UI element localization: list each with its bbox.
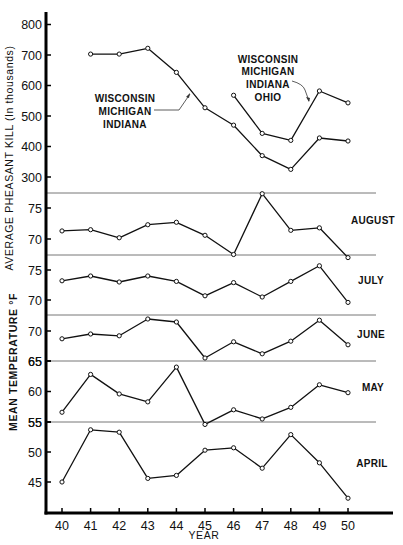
data-point-marker: [346, 256, 350, 260]
data-point-marker: [289, 433, 293, 437]
data-point-marker: [174, 365, 178, 369]
data-point-marker: [232, 252, 236, 256]
annotation-arrow: [154, 94, 190, 110]
data-point-marker: [203, 106, 207, 110]
month-label: AUGUST: [351, 215, 395, 226]
series-line: [62, 430, 348, 498]
series-label-wi-mi-in: INDIANA: [103, 119, 147, 130]
y-tick-label: 75: [28, 264, 42, 278]
data-point-marker: [317, 318, 321, 322]
arrow-head-icon: [186, 93, 190, 98]
data-point-marker: [203, 233, 207, 237]
data-point-marker: [60, 279, 64, 283]
series-line: [62, 194, 348, 258]
series-label-wi-mi-in-oh: MICHIGAN: [242, 66, 295, 77]
data-point-marker: [289, 405, 293, 409]
chart-canvas: 4041424344454647484950YEAR30040050060070…: [0, 0, 403, 545]
y-tick-label: 500: [21, 110, 42, 124]
y-tick-label: 45: [28, 476, 42, 490]
data-point-marker: [289, 167, 293, 171]
x-tick-label: 47: [255, 519, 269, 533]
x-tick-label: 50: [341, 519, 355, 533]
y-tick-label: 70: [28, 294, 42, 308]
data-point-marker: [146, 274, 150, 278]
data-point-marker: [89, 332, 93, 336]
data-point-marker: [260, 192, 264, 196]
data-point-marker: [317, 226, 321, 230]
y-tick-label: 60: [28, 385, 42, 399]
x-axis-title: YEAR: [189, 529, 220, 541]
annotation-arrow: [292, 81, 309, 101]
data-point-marker: [260, 295, 264, 299]
data-point-marker: [289, 228, 293, 232]
data-point-marker: [203, 294, 207, 298]
data-point-marker: [346, 391, 350, 395]
y-tick-label: 50: [28, 446, 42, 460]
data-point-marker: [346, 101, 350, 105]
data-point-marker: [89, 372, 93, 376]
data-point-marker: [89, 52, 93, 56]
data-point-marker: [317, 89, 321, 93]
data-point-marker: [89, 428, 93, 432]
data-point-marker: [174, 320, 178, 324]
x-tick-label: 41: [84, 519, 98, 533]
series-line: [62, 319, 348, 358]
month-label: APRIL: [356, 458, 388, 469]
y-axis-title-temperature: MEAN TEMPERATURE °F: [7, 293, 19, 431]
data-point-marker: [232, 93, 236, 97]
data-point-marker: [117, 236, 121, 240]
y-tick-label: 65: [28, 355, 42, 369]
x-tick-label: 46: [227, 519, 241, 533]
x-tick-label: 42: [112, 519, 126, 533]
data-point-marker: [146, 223, 150, 227]
y-axis-title-pheasant-kill: AVERAGE PHEASANT KILL (In thousands): [3, 45, 15, 270]
data-point-marker: [346, 496, 350, 500]
data-point-marker: [346, 139, 350, 143]
series-label-wi-mi-in: WISCONSIN: [95, 93, 155, 104]
data-point-marker: [117, 334, 121, 338]
data-point-marker: [346, 300, 350, 304]
series-label-wi-mi-in-oh: INDIANA: [246, 79, 290, 90]
data-point-marker: [146, 400, 150, 404]
data-point-marker: [260, 466, 264, 470]
series-line: [62, 367, 348, 424]
data-point-marker: [346, 343, 350, 347]
annotations: AUGUSTJULYJUNEMAYAPRILWISCONSINMICHIGANI…: [95, 54, 395, 470]
data-point-marker: [232, 446, 236, 450]
data-point-marker: [174, 473, 178, 477]
y-tick-label: 400: [21, 140, 42, 154]
data-point-marker: [260, 417, 264, 421]
data-point-marker: [260, 352, 264, 356]
y-tick-label: 600: [21, 79, 42, 93]
x-tick-label: 49: [312, 519, 326, 533]
data-point-marker: [174, 220, 178, 224]
data-point-marker: [117, 280, 121, 284]
data-point-marker: [89, 228, 93, 232]
data-point-marker: [146, 476, 150, 480]
x-tick-label: 43: [141, 519, 155, 533]
data-point-marker: [60, 229, 64, 233]
month-label: JULY: [358, 275, 384, 286]
data-point-marker: [117, 430, 121, 434]
x-tick-label: 40: [55, 519, 69, 533]
data-point-marker: [317, 136, 321, 140]
data-point-marker: [289, 138, 293, 142]
y-tick-label: 70: [28, 325, 42, 339]
data-point-marker: [232, 340, 236, 344]
data-point-marker: [317, 461, 321, 465]
data-point-marker: [117, 52, 121, 56]
data-point-marker: [174, 70, 178, 74]
month-label: JUNE: [357, 329, 385, 340]
series-label-wi-mi-in-oh: WISCONSIN: [238, 54, 298, 65]
y-tick-label: 800: [21, 18, 42, 32]
data-point-marker: [60, 410, 64, 414]
data-point-marker: [203, 448, 207, 452]
data-point-marker: [60, 480, 64, 484]
x-tick-label: 48: [284, 519, 298, 533]
series-label-wi-mi-in-oh: OHIO: [255, 92, 282, 103]
data-point-marker: [317, 264, 321, 268]
month-label: MAY: [362, 382, 384, 393]
data-point-marker: [89, 274, 93, 278]
y-tick-label: 70: [28, 233, 42, 247]
data-point-marker: [117, 392, 121, 396]
